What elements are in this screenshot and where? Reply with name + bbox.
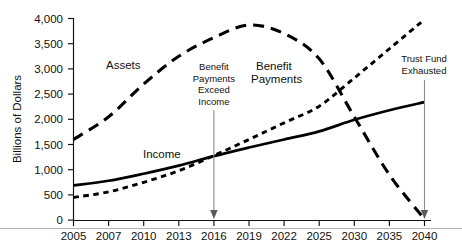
y-tick-label-1000: 1,000: [34, 164, 63, 176]
annotation-exhausted-line1: Trust Fund: [401, 53, 447, 64]
x-tick-label-2010: 2010: [131, 230, 157, 242]
annotation-exhausted-line2: Exhausted: [402, 65, 447, 76]
y-tick-label-3500: 3,500: [34, 38, 63, 50]
x-tick-label-2025: 2025: [306, 230, 332, 242]
y-axis-tick-labels: 4,000 3,500 3,000 2,500 2,000 1,500 1,00…: [34, 13, 63, 227]
y-tick-label-1500: 1,500: [34, 139, 63, 151]
chart-figure: 4,000 3,500 3,000 2,500 2,000 1,500 1,00…: [0, 0, 462, 252]
y-axis-title: Billions of Dollars: [11, 75, 23, 163]
x-axis-ticks: [74, 221, 425, 227]
x-axis-tick-labels: 2005 2007 2010 2013 2016 2019 2022 2025 …: [61, 230, 438, 242]
y-tick-label-2000: 2,000: [34, 113, 63, 125]
series-line-income: [74, 102, 425, 185]
annotation-exceed-line1: Benefit: [199, 61, 229, 72]
x-tick-label-2035: 2035: [377, 230, 403, 242]
y-tick-label-2500: 2,500: [34, 88, 63, 100]
x-tick-label-2013: 2013: [166, 230, 192, 242]
x-tick-label-2016: 2016: [201, 230, 227, 242]
x-tick-label-2022: 2022: [271, 230, 297, 242]
figure-caption-cropped: [0, 244, 462, 252]
y-tick-label-3000: 3,000: [34, 63, 63, 75]
x-tick-label-2005: 2005: [61, 230, 87, 242]
axes: [0, 18, 462, 229]
data-series: [74, 20, 425, 220]
y-axis-ticks: [68, 19, 74, 221]
social-security-projection-chart: 4,000 3,500 3,000 2,500 2,000 1,500 1,00…: [0, 0, 462, 252]
annotation-exceed-arrow-head: [210, 210, 217, 219]
x-tick-label-2007: 2007: [96, 230, 122, 242]
y-tick-label-4000: 4,000: [34, 13, 63, 25]
x-tick-label-2040: 2040: [412, 230, 438, 242]
annotation-trust-fund-exhausted: Trust Fund Exhausted: [401, 53, 447, 219]
annotation-exceed-line4: Income: [198, 96, 229, 107]
x-tick-label-2019: 2019: [236, 230, 262, 242]
series-label-income: Income: [143, 148, 181, 160]
series-label-assets: Assets: [106, 59, 141, 71]
series-line-benefit-payments: [74, 20, 425, 198]
x-tick-label-2030: 2030: [342, 230, 368, 242]
annotation-exceed-line2: Payments: [193, 73, 235, 84]
series-label-benefit-payments-line2: Payments: [251, 73, 302, 85]
y-tick-label-500: 500: [44, 189, 63, 201]
annotation-exceed-line3: Exceed: [198, 84, 230, 95]
series-line-assets: [74, 25, 425, 219]
annotation-benefit-payments-exceed-income: Benefit Payments Exceed Income: [193, 61, 235, 219]
y-tick-label-0: 0: [57, 214, 63, 226]
series-label-benefit-payments-line1: Benefit: [256, 60, 293, 72]
